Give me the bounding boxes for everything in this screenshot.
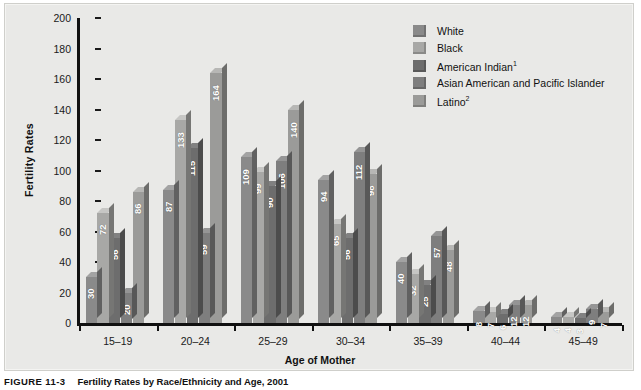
bar-front-face: 4: [551, 317, 562, 323]
x-axis-tickmark: [157, 325, 159, 331]
bar: 4: [551, 317, 562, 323]
bar: 30: [86, 277, 97, 323]
legend-swatch: [413, 25, 426, 37]
bar-front-face: 87: [163, 190, 174, 323]
legend-swatch: [413, 95, 426, 107]
bar-value-label: 7: [486, 316, 496, 328]
bar-value-label: 57: [432, 240, 442, 258]
bar-side-face: [132, 283, 137, 319]
bar-side-face: [419, 264, 424, 318]
bar-side-face: [109, 203, 114, 318]
bar-group-15-19: 8620567230: [79, 18, 157, 323]
legend-footnote-marker: 1: [513, 60, 517, 67]
bar-value-label: 72: [98, 217, 108, 235]
bar-side-face: [287, 151, 292, 318]
x-axis-tickmark: [79, 325, 81, 331]
bar-side-face: [120, 228, 125, 318]
x-axis-tickmark: [234, 325, 236, 331]
x-axis-tickmark: [622, 325, 624, 331]
bar-side-face: [252, 147, 257, 318]
bar-side-face: [609, 302, 614, 318]
legend-item-white: White: [413, 22, 605, 40]
bar-value-label: 109: [241, 161, 251, 185]
x-axis-label-15-19: 15–19: [79, 335, 157, 347]
x-axis-label-45-49: 45–49: [544, 335, 622, 347]
x-axis-line: [77, 323, 622, 326]
bar-group-30-34: 98112566594: [312, 18, 390, 323]
legend-item-latino: Latino2: [413, 92, 605, 110]
y-axis-tick-140: 140: [29, 104, 71, 116]
bar-side-face: [186, 110, 191, 318]
bar: 3: [575, 318, 586, 323]
y-axis-tick-40: 40: [29, 256, 71, 268]
bar: 94: [318, 180, 329, 323]
bar: 109: [241, 157, 252, 323]
y-axis-tick-100: 100: [29, 165, 71, 177]
bar-value-label: 6: [498, 318, 508, 330]
bar-front-face: 6: [497, 314, 508, 323]
x-axis-label-35-39: 35–39: [389, 335, 467, 347]
bar-side-face: [442, 226, 447, 318]
figure-caption: FIGURE 11-3Fertility Rates by Race/Ethni…: [4, 376, 634, 387]
legend-label: Black: [437, 42, 463, 54]
legend-swatch: [413, 60, 426, 72]
bar-side-face: [174, 180, 179, 318]
legend-label: American Indian1: [437, 60, 517, 73]
bar-value-label: 3: [575, 322, 585, 334]
y-axis-tick-200: 200: [29, 12, 71, 24]
bar-side-face: [210, 223, 215, 318]
bar-side-face: [264, 162, 269, 318]
bar-side-face: [532, 295, 537, 318]
legend-swatch: [413, 42, 426, 54]
figure-container: Fertility Rates 020406080100120140160180…: [0, 0, 641, 390]
bar-side-face: [341, 214, 346, 318]
bar-side-face: [144, 182, 149, 318]
bar: 40: [396, 262, 407, 323]
legend-item-american-indian: American Indian1: [413, 57, 605, 75]
chart-panel: Fertility Rates 020406080100120140160180…: [4, 3, 634, 371]
legend-label: Asian American and Pacific Islander: [437, 77, 605, 89]
bar: 4: [563, 317, 574, 323]
bar-group-20-24: 1645911513387: [157, 18, 235, 323]
x-axis-title: Age of Mother: [5, 354, 635, 366]
y-axis-tick-60: 60: [29, 226, 71, 238]
x-axis-label-20-24: 20–24: [157, 335, 235, 347]
bar-side-face: [407, 252, 412, 318]
y-axis-tick-80: 80: [29, 195, 71, 207]
bar-side-face: [365, 142, 370, 318]
bar-side-face: [353, 228, 358, 318]
x-axis-tickmark: [544, 325, 546, 331]
bar-front-face: 40: [396, 262, 407, 323]
bar-value-label: 133: [176, 124, 186, 148]
y-axis-tick-0: 0: [29, 317, 71, 329]
legend-footnote-marker: 2: [466, 95, 470, 102]
x-axis-tickmark: [389, 325, 391, 331]
legend-label: White: [437, 25, 464, 37]
y-axis-tick-180: 180: [29, 43, 71, 55]
bar: 6: [497, 314, 508, 323]
bar-side-face: [431, 275, 436, 318]
x-axis-label-40-44: 40–44: [467, 335, 545, 347]
bar-front-face: 3: [575, 318, 586, 323]
y-axis-tick-labels: 020406080100120140160180200: [27, 18, 71, 323]
bar-value-label: 164: [211, 77, 221, 101]
bar-front-face: 30: [86, 277, 97, 323]
bar-side-face: [454, 240, 459, 318]
x-axis-tickmark: [467, 325, 469, 331]
bar-side-face: [97, 267, 102, 318]
chart-legend: WhiteBlackAmerican Indian1Asian American…: [413, 22, 605, 110]
bar-value-label: 8: [474, 315, 484, 327]
legend-item-asian-american-and-pacific-islander: Asian American and Pacific Islander: [413, 75, 605, 93]
bar-value-label: 140: [289, 114, 299, 138]
bar-front-face: 94: [318, 180, 329, 323]
bar-value-label: 7: [599, 316, 609, 328]
bar-group-25-29: 1401069099109: [234, 18, 312, 323]
figure-caption-text: Fertility Rates by Race/Ethnicity and Ag…: [77, 376, 288, 387]
y-axis-tick-20: 20: [29, 287, 71, 299]
bar: 8: [473, 311, 484, 323]
bar: 87: [163, 190, 174, 323]
y-axis-tick-160: 160: [29, 73, 71, 85]
bar-side-face: [222, 63, 227, 318]
bar-value-label: 94: [319, 184, 329, 202]
bar-side-face: [377, 164, 382, 318]
